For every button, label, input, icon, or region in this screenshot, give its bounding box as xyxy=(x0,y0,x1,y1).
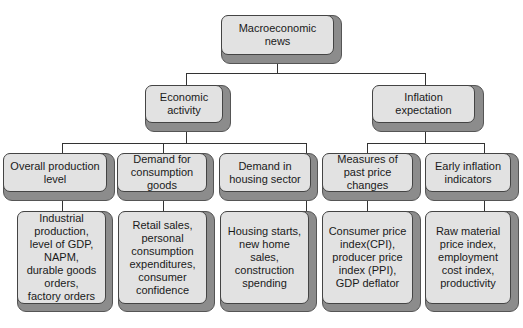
node-economic-activity: Economic activity xyxy=(145,85,231,132)
detail-text: Retail sales, personal consumption expen… xyxy=(118,211,207,304)
connector xyxy=(186,73,425,74)
connector xyxy=(277,63,278,73)
node-overall-production-level: Overall production level xyxy=(3,153,115,201)
node-label: Macroeconomic news xyxy=(221,15,334,55)
node-past-price-changes: Measures of past price changes xyxy=(322,153,421,201)
node-label: Early inflation indicators xyxy=(425,153,511,192)
detail-text: Housing starts, new home sales, construc… xyxy=(220,211,309,304)
node-label: Overall production level xyxy=(3,153,107,192)
detail-text: Raw material price index, employment cos… xyxy=(425,211,511,304)
node-demand-housing-sector: Demand in housing sector xyxy=(219,153,318,201)
node-label: Inflation expectation xyxy=(372,85,475,123)
node-macroeconomic-news: Macroeconomic news xyxy=(221,15,342,64)
node-label: Demand for consumption goods xyxy=(117,153,207,192)
detail-housing-sector: Housing starts, new home sales, construc… xyxy=(220,211,317,312)
node-early-inflation-indicators: Early inflation indicators xyxy=(425,153,519,201)
connector xyxy=(62,143,307,144)
node-label: Economic activity xyxy=(145,85,223,123)
node-inflation-expectation: Inflation expectation xyxy=(372,85,484,132)
detail-text: Industrial production, level of GDP, NAP… xyxy=(17,211,106,304)
detail-early-inflation: Raw material price index, employment cos… xyxy=(425,211,519,312)
connector xyxy=(367,143,485,144)
detail-past-price-changes: Consumer price index(CPI), producer pric… xyxy=(322,211,421,312)
node-label: Demand in housing sector xyxy=(219,153,311,192)
node-label: Measures of past price changes xyxy=(322,153,413,192)
detail-text: Consumer price index(CPI), producer pric… xyxy=(322,211,413,304)
detail-consumption-goods: Retail sales, personal consumption expen… xyxy=(118,211,215,312)
node-demand-consumption-goods: Demand for consumption goods xyxy=(117,153,214,201)
detail-overall-production: Industrial production, level of GDP, NAP… xyxy=(17,211,113,312)
